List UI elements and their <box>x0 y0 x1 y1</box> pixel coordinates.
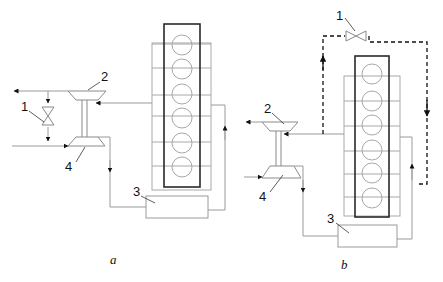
label-turbine-b: 2 <box>264 102 271 115</box>
panel-b <box>244 18 427 247</box>
label-compressor-b: 4 <box>259 190 266 203</box>
schematic-canvas <box>0 0 443 282</box>
label-valve-b: 1 <box>336 9 343 22</box>
engine-b <box>344 56 400 217</box>
label-cooler-a: 3 <box>133 185 140 198</box>
caption-b: b <box>341 258 348 271</box>
panel-a <box>12 24 225 218</box>
bypass-b <box>323 36 427 184</box>
compressor-a <box>68 137 105 146</box>
intercooler-b <box>338 225 397 247</box>
caption-a: a <box>110 253 117 266</box>
engine-a <box>152 24 211 190</box>
compressor-b <box>262 166 301 178</box>
valve-b <box>346 31 366 41</box>
label-turbine-a: 2 <box>101 70 108 83</box>
intercooler-a <box>146 196 208 218</box>
turbine-a <box>68 91 106 137</box>
label-compressor-a: 4 <box>65 160 72 173</box>
label-cooler-b: 3 <box>327 212 334 225</box>
turbine-b <box>262 122 298 168</box>
label-valve-a: 1 <box>21 100 28 113</box>
return-line-b <box>397 137 412 239</box>
valve-a <box>42 107 54 125</box>
